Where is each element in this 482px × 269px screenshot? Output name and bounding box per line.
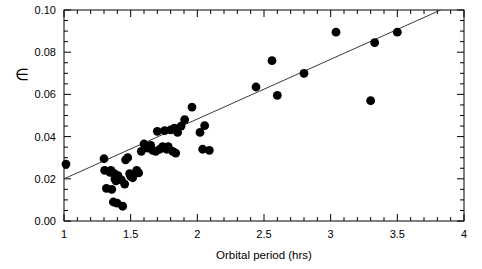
x-tick-label: 3 [328,228,334,240]
data-point [273,91,282,100]
x-tick-label: 1 [61,228,67,240]
data-point [205,146,214,155]
data-point [120,180,129,189]
fit-line [64,10,441,179]
y-tick-label: 0.08 [35,46,56,58]
x-tick-label: 4 [461,228,467,240]
data-point [332,28,341,37]
data-point [107,185,116,194]
data-point [393,28,402,37]
y-tick-label: 0.02 [35,173,56,185]
data-point [200,121,209,130]
data-point [171,149,180,158]
x-axis-title: Orbital period (hrs) [216,249,312,261]
y-tick-label: 0.00 [35,215,56,227]
y-axis-title: ∈ [15,66,29,83]
data-point [123,153,132,162]
data-point [62,160,71,169]
x-tick-label: 3.5 [390,228,405,240]
x-tick-label: 1.5 [123,228,138,240]
data-point [366,96,375,105]
data-point [268,56,277,65]
y-tick-label: 0.10 [35,4,56,16]
data-point [118,202,127,211]
plot-frame [64,10,464,221]
data-point [252,83,261,92]
y-tick-label: 0.06 [35,88,56,100]
data-point [100,154,109,163]
y-tick-label: 0.04 [35,131,56,143]
data-point [188,103,197,112]
plot-canvas: 11.522.533.540.000.020.040.060.080.10Orb… [0,0,482,269]
scatter-plot-figure: 11.522.533.540.000.020.040.060.080.10Orb… [0,0,482,269]
data-point [300,69,309,78]
x-tick-label: 2 [194,228,200,240]
data-point [370,38,379,47]
data-point [180,115,189,124]
x-tick-label: 2.5 [256,228,271,240]
data-point [134,168,143,177]
